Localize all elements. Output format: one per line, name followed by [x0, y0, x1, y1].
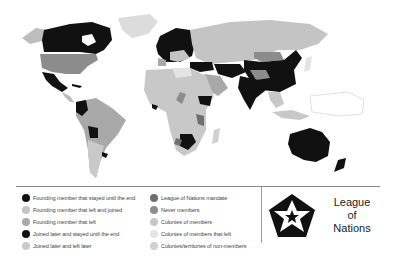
legend: Founding member that stayed until the en…: [0, 186, 397, 264]
legend-item: Founding member that left: [22, 216, 135, 228]
legend-swatch: [150, 242, 158, 250]
legend-item: Founding member that stayed until the en…: [22, 192, 135, 204]
legend-swatch: [22, 218, 30, 226]
legend-item: League of Nations mandate: [150, 192, 246, 204]
legend-swatch: [150, 206, 158, 214]
legend-label: League of Nations mandate: [161, 195, 227, 201]
legend-column-membership: Founding member that stayed until the en…: [22, 192, 135, 252]
region-greenland: [118, 14, 158, 38]
region-usa: [40, 54, 98, 74]
legend-item: Founding member that left and joined: [22, 204, 135, 216]
legend-label: Founding member that stayed until the en…: [33, 195, 135, 201]
legend-item: Never members: [150, 204, 246, 216]
region-australia: [288, 128, 330, 162]
legend-label: Founding member that left and joined: [33, 207, 122, 213]
world-map: [0, 0, 397, 185]
title-line-3: Nations: [318, 222, 386, 235]
legend-swatch: [150, 194, 158, 202]
legend-item: Colonies of members that left: [150, 228, 246, 240]
legend-column-territories: League of Nations mandate Never members …: [150, 192, 246, 252]
legend-label: Joined later and left later: [33, 243, 92, 249]
legend-divider: [16, 186, 380, 187]
legend-label: Colonies/territories of non-members: [161, 243, 246, 249]
title-line-1: League: [318, 196, 386, 209]
legend-swatch: [150, 230, 158, 238]
legend-item: Joined later and left later: [22, 240, 135, 252]
legend-swatch: [22, 206, 30, 214]
legend-swatch: [150, 218, 158, 226]
league-of-nations-star-pentagon-icon: [268, 193, 316, 239]
region-canada: [42, 22, 112, 54]
legend-swatch: [22, 230, 30, 238]
title-line-2: of: [318, 209, 386, 222]
legend-label: Never members: [161, 207, 200, 213]
league-of-nations-title: League of Nations: [318, 196, 386, 235]
legend-label: Colonies of members: [161, 219, 212, 225]
region-mexico: [42, 72, 68, 92]
legend-label: Colonies of members that left: [161, 231, 231, 237]
legend-label: Founding member that left: [33, 219, 96, 225]
legend-item: Colonies of members: [150, 216, 246, 228]
legend-swatch: [22, 242, 30, 250]
legend-vertical-divider: [261, 187, 262, 243]
legend-swatch: [22, 194, 30, 202]
legend-item: Colonies/territories of non-members: [150, 240, 246, 252]
legend-item: Joined later and stayed until the end: [22, 228, 135, 240]
legend-label: Joined later and stayed until the end: [33, 231, 119, 237]
